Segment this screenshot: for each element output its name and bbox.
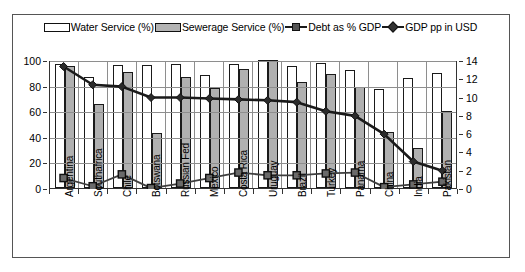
legend-label-water: Water Service (%) [71,21,154,33]
x-axis-label: Costa Rica [238,150,249,197]
y-right-tick-label: 2 [466,165,472,177]
y-left-tick-mark [43,87,47,88]
y-left-tick-mark [43,163,47,164]
x-axis-tick-mark [195,189,196,194]
y-left-tick-mark [43,61,47,62]
y-right-tick-label: 14 [466,55,478,67]
x-axis-tick-mark [49,189,50,194]
bar-water-service [200,75,210,188]
bar-groups [50,61,456,188]
diamond-line-marker-icon [382,23,404,31]
bar-group [282,61,311,188]
x-axis-tick-mark [282,189,283,194]
x-axis-label: Pakistan [442,160,453,197]
y-left-tick-mark [43,189,47,190]
bar-water-service [287,66,297,188]
legend-item-gdp: GDP pp in USD [382,21,478,33]
y-right-tick-label: 0 [466,183,472,195]
x-axis-label-cell: Chile [107,195,136,272]
x-axis-ticks [49,189,457,194]
x-axis-label-cell: Turkey [311,195,340,272]
bar-water-service [113,65,123,188]
y-left-tick-mark [43,112,47,113]
y-right-tick-mark [459,98,463,99]
y-left-tick-label: 100 [23,55,41,67]
y-right-tick-mark [459,79,463,80]
y-left-tick-label: 80 [29,81,41,93]
chart-legend: Water Service (%) Sewerage Service (%) D… [13,21,509,33]
x-axis-label: Turkey [326,168,337,197]
y-right-tick-mark [459,171,463,172]
x-axis-tick-mark [457,189,458,194]
bar-group [369,61,398,188]
x-axis-tick-mark [107,189,108,194]
x-axis-label: Brazil [297,173,308,197]
y-right-tick-mark [459,152,463,153]
x-axis-labels: ArgentinaSouthafricaChileBotswanaRussian… [49,195,457,272]
bar-water-service [432,73,442,188]
bar-water-service [55,64,65,188]
x-axis-label: Panama [355,161,366,197]
x-axis-label-cell: Brazil [282,195,311,272]
y-right-tick-label: 6 [466,128,472,140]
x-axis-label: Uruguay [268,161,279,197]
y-left-tick-mark [43,138,47,139]
y-right-tick-label: 8 [466,110,472,122]
y-left-tick-label: 0 [35,183,41,195]
legend-label-gdp: GDP pp in USD [405,21,477,33]
x-axis-tick-mark [224,189,225,194]
y-right-tick-label: 10 [466,92,478,104]
x-axis-label-cell: Uruguay [253,195,282,272]
x-axis-label: Argentina [64,156,75,197]
y-right-tick-label: 12 [466,73,478,85]
x-axis-label-cell: Pakistan [428,195,457,272]
bar-pair [282,61,311,188]
x-axis-tick-mark [78,189,79,194]
gridline [50,61,456,62]
x-axis-label-cell: Argentina [49,195,78,272]
x-axis-label: Chile [122,175,133,197]
y-left-tick-label: 20 [29,157,41,169]
y-right-tick-label: 4 [466,146,472,158]
x-axis-label-cell: Costa Rica [224,195,253,272]
chart-frame: Water Service (%) Sewerage Service (%) D… [12,14,510,258]
bar-water-service [258,60,268,188]
x-axis-tick-mark [399,189,400,194]
x-axis-label: China [384,172,395,197]
grey-bar-swatch-icon [155,23,181,32]
gridline [50,112,456,113]
x-axis-tick-mark [166,189,167,194]
x-axis-label: Mexico [209,167,220,197]
gridline [50,163,456,164]
gridline [50,138,456,139]
x-axis-label-cell: India [399,195,428,272]
x-axis-label-cell: Mexico [195,195,224,272]
x-axis-label-cell: Botswana [136,195,165,272]
left-axis: 020406080100 [13,61,47,189]
x-axis-label: Southafrica [93,149,104,197]
x-axis-label: Botswana [151,155,162,197]
legend-item-debt: Debt as % GDP [285,21,382,33]
x-axis-label-cell: Panama [340,195,369,272]
x-axis-label: Russian Fed [180,143,191,197]
bar-water-service [142,65,152,188]
x-axis-label-cell: Russian Fed [166,195,195,272]
y-right-tick-mark [459,189,463,190]
chart-screenshot: Water Service (%) Sewerage Service (%) D… [0,0,525,272]
y-right-tick-mark [459,61,463,62]
square-line-marker-icon [285,23,307,31]
bar-water-service [316,63,326,188]
bar-pair [369,61,398,188]
bar-water-service [171,64,181,188]
x-axis-tick-mark [311,189,312,194]
bar-pair [108,61,137,188]
x-axis-tick-mark [370,189,371,194]
y-left-tick-label: 40 [29,132,41,144]
bar-pair [398,61,427,188]
white-bar-swatch-icon [44,23,70,32]
bar-water-service [229,64,239,188]
bar-group [108,61,137,188]
x-axis-tick-mark [253,189,254,194]
bar-sewerage-service [297,82,307,188]
bar-water-service [84,77,94,188]
